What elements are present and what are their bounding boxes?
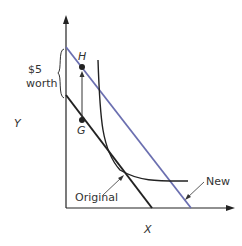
y-axis [63, 15, 69, 208]
x-axis-label: X [144, 224, 152, 235]
point-h-label: H [78, 51, 86, 62]
point-g [79, 117, 85, 123]
point-g-label: G [77, 125, 86, 136]
new-pointer [185, 182, 204, 200]
brace-label-worth: worth [26, 78, 58, 89]
y-axis-label: Y [14, 118, 21, 129]
brace-label-amount: $5 [28, 64, 42, 75]
new-line-label: New [206, 176, 230, 187]
indifference-curve [98, 60, 188, 181]
brace-icon [58, 49, 64, 98]
diagram-canvas [0, 0, 242, 246]
original-line-label: Original [75, 192, 118, 203]
point-h [79, 64, 85, 70]
